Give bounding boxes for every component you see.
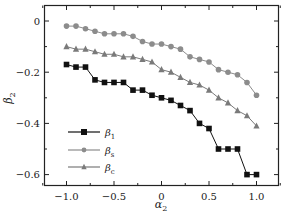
square-marker <box>149 92 155 98</box>
circle-marker <box>149 41 155 47</box>
circle-marker <box>187 54 193 60</box>
circle-marker <box>216 67 222 73</box>
circle-marker <box>140 39 146 45</box>
legend-label: β1 <box>104 127 115 141</box>
x-tick-label: 0.5 <box>201 191 217 202</box>
square-marker <box>81 129 87 135</box>
triangle-marker <box>244 112 250 118</box>
circle-marker <box>159 41 165 47</box>
circle-marker <box>225 69 231 75</box>
triangle-marker <box>234 107 240 113</box>
circle-marker <box>254 92 260 98</box>
square-marker <box>187 108 193 114</box>
circle-marker <box>73 23 79 29</box>
square-marker <box>254 172 260 178</box>
square-marker <box>92 77 98 83</box>
square-marker <box>130 87 136 93</box>
data-series <box>63 23 259 177</box>
x-tick-label: −0.5 <box>102 191 126 202</box>
triangle-marker <box>206 87 212 93</box>
square-marker <box>159 95 165 101</box>
circle-marker <box>197 57 203 63</box>
y-tick-label: −0.6 <box>16 169 40 180</box>
triangle-marker <box>187 79 193 85</box>
square-marker <box>235 146 241 152</box>
square-marker <box>216 146 222 152</box>
legend-item: β1 <box>68 127 115 141</box>
square-marker <box>102 80 108 86</box>
circle-marker <box>82 148 87 153</box>
circle-marker <box>102 31 108 37</box>
triangle-marker <box>130 53 136 59</box>
circle-marker <box>178 46 184 52</box>
square-marker <box>197 121 203 127</box>
circle-marker <box>130 34 136 40</box>
y-tick-label: −0.4 <box>16 118 40 129</box>
square-marker <box>244 172 250 178</box>
circle-marker <box>121 31 127 37</box>
circle-marker <box>111 31 117 37</box>
line-chart: −1.0−0.500.51.0 0−0.2−0.4−0.6 β1βsβc α2 … <box>0 0 285 214</box>
x-tick-label: 1.0 <box>249 191 265 202</box>
legend-item: βs <box>68 145 115 159</box>
y-axis-label: β2 <box>2 92 17 104</box>
triangle-marker <box>63 43 69 49</box>
y-tick-label: 0 <box>34 16 40 27</box>
square-marker <box>225 146 231 152</box>
series-square <box>64 62 260 178</box>
square-marker <box>64 62 70 68</box>
legend-label: βs <box>104 145 115 159</box>
square-marker <box>206 126 212 132</box>
y-axis-ticks: 0−0.2−0.4−0.6 <box>16 16 279 181</box>
series-circle <box>64 23 260 98</box>
triangle-marker <box>225 99 231 105</box>
circle-marker <box>244 80 250 86</box>
circle-marker <box>92 28 98 34</box>
triangle-marker <box>177 74 183 80</box>
series-triangle <box>63 43 259 129</box>
circle-marker <box>206 59 212 65</box>
square-marker <box>73 64 79 70</box>
legend-label: βc <box>104 162 115 176</box>
circle-marker <box>83 26 89 32</box>
x-axis-label: α2 <box>155 198 168 213</box>
y-tick-label: −0.2 <box>16 67 40 78</box>
series-line <box>67 26 257 95</box>
circle-marker <box>168 44 174 50</box>
x-tick-label: −1.0 <box>54 191 78 202</box>
circle-marker <box>235 72 241 78</box>
square-marker <box>178 103 184 109</box>
square-marker <box>168 98 174 104</box>
legend-item: βc <box>68 162 115 176</box>
square-marker <box>83 64 89 70</box>
square-marker <box>140 87 146 93</box>
legend: β1βsβc <box>68 127 115 176</box>
square-marker <box>111 80 117 86</box>
triangle-marker <box>215 94 221 100</box>
series-line <box>67 47 257 126</box>
square-marker <box>121 80 127 86</box>
circle-marker <box>64 23 70 29</box>
triangle-marker <box>158 66 164 72</box>
